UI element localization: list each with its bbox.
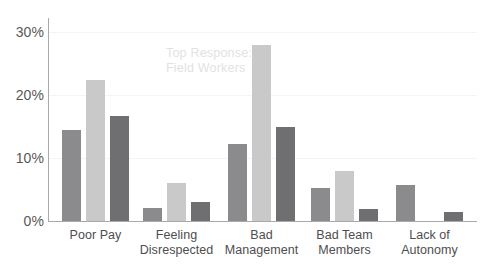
bar — [396, 185, 415, 221]
bar — [228, 144, 247, 221]
bar — [191, 202, 210, 221]
bar — [252, 45, 271, 221]
bar — [276, 127, 295, 221]
bar-chart: Top Response: Field Workers 30% 20% 10% … — [0, 0, 482, 264]
bar — [62, 130, 81, 221]
x-axis-line — [48, 221, 477, 222]
category-label: Lack of Autonomy — [370, 228, 482, 258]
bar — [86, 80, 105, 221]
bars-layer — [49, 18, 477, 221]
bar — [359, 209, 378, 221]
y-tick-20: 20% — [2, 88, 44, 102]
y-tick-0: 0% — [2, 214, 44, 228]
bar — [335, 171, 354, 221]
y-axis-tick-labels: 30% 20% 10% 0% — [0, 0, 44, 264]
y-tick-10: 10% — [2, 151, 44, 165]
bar — [167, 183, 186, 221]
y-tick-30: 30% — [2, 25, 44, 39]
bar — [110, 116, 129, 221]
bar — [143, 208, 162, 221]
bar — [444, 212, 463, 221]
bar — [311, 188, 330, 221]
